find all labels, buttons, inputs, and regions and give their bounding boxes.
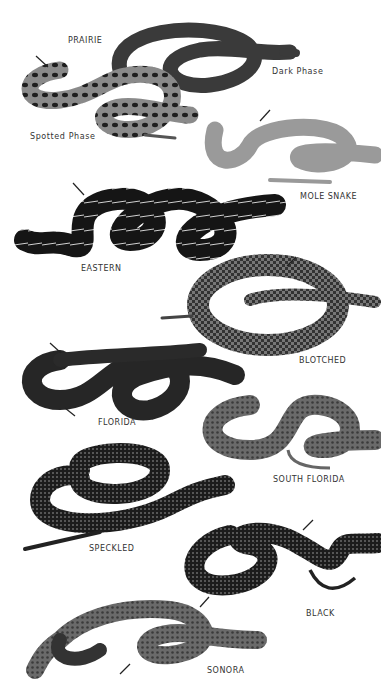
south-florida-king-snake — [213, 405, 376, 468]
label-dark-phase: Dark Phase — [272, 67, 323, 76]
sonora-king-snake — [35, 597, 258, 674]
label-south-florida: SOUTH FLORIDA — [273, 475, 345, 484]
label-eastern: EASTERN — [81, 264, 122, 273]
label-mole-snake: MOLE SNAKE — [300, 192, 357, 201]
florida-king-snake — [32, 343, 235, 416]
mole-snake — [213, 110, 375, 182]
label-florida: FLORIDA — [98, 418, 136, 427]
label-speckled: SPECKLED — [89, 544, 134, 553]
label-black: BLACK — [306, 609, 335, 618]
snake-illustration-plate: PRAIRIE Dark Phase Spotted Phase MOLE SN… — [0, 0, 381, 692]
speckled-king-snake — [25, 453, 225, 549]
blotched-king-snake — [162, 257, 375, 345]
snake-illustrations — [0, 0, 381, 692]
black-king-snake — [194, 520, 378, 588]
label-sonora: SONORA — [207, 666, 244, 675]
eastern-king-snake — [25, 183, 275, 250]
label-blotched: BLOTCHED — [299, 356, 346, 365]
label-spotted-phase: Spotted Phase — [30, 132, 96, 141]
label-prairie: PRAIRIE — [68, 36, 102, 45]
